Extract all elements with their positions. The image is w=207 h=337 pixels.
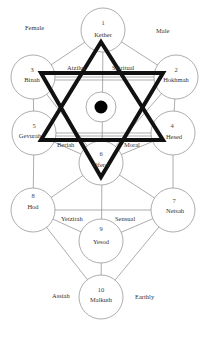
assiah-label: Assiah — [52, 292, 70, 299]
sefirah-number-3: 3 — [30, 66, 33, 73]
sensual-label: Sensual — [115, 215, 135, 222]
sefirah-name-6: Tiferet — [92, 161, 110, 168]
sefirah-number-5: 5 — [32, 122, 35, 129]
atziluth-label: Atzilut — [67, 64, 85, 71]
male-label: Male — [156, 27, 169, 34]
moral-label: Moral — [124, 141, 140, 148]
yetzirah-label: Yetzirah — [61, 215, 83, 222]
tree-of-life-diagram: Female Male 1 Kether 2 Hokhmah 3 Binah 4… — [0, 0, 207, 337]
sefirah-name-1: Kether — [94, 31, 113, 38]
sefirah-name-2: Hokhmah — [163, 76, 189, 83]
sefirah-number-2: 2 — [174, 66, 177, 73]
sefirah-name-3: Binah — [24, 76, 40, 83]
sefirah-number-10: 10 — [98, 286, 105, 293]
sefirah-name-9: Yesod — [93, 238, 110, 245]
sefirah-number-1: 1 — [101, 19, 104, 26]
earthly-label: Earthly — [135, 293, 155, 300]
sefirah-name-4: Hesed — [166, 133, 183, 140]
sefirah-number-9: 9 — [99, 225, 102, 232]
sefirah-name-5: Gevurah — [19, 132, 42, 139]
sefirah-name-10: Malkuth — [90, 296, 113, 303]
beriah-label: Beriah — [57, 141, 75, 148]
daat-dot — [95, 101, 108, 114]
sefirah-number-8: 8 — [31, 192, 34, 199]
spiritual-label: Spiritual — [112, 64, 135, 71]
female-label: Female — [25, 24, 44, 31]
sefirah-name-8: Hod — [27, 203, 39, 210]
sefirah-name-7: Netsah — [166, 207, 185, 214]
